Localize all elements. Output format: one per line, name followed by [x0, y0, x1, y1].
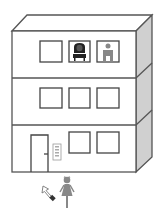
floor-3 [40, 41, 119, 62]
intercom-panel[interactable] [53, 144, 61, 160]
window-w3-3[interactable] [97, 41, 119, 62]
building-scene [0, 0, 162, 218]
woman-visitor-icon [60, 176, 74, 208]
window-w2-3[interactable] [97, 88, 119, 108]
window-w1-3[interactable] [97, 132, 119, 153]
window-w1-2[interactable] [69, 132, 90, 153]
window-w2-1[interactable] [40, 88, 62, 108]
building-side-wall [136, 15, 152, 172]
window-w2-2[interactable] [69, 88, 90, 108]
building-roof [12, 15, 152, 31]
window-w3-1[interactable] [40, 41, 62, 62]
window-w3-2[interactable] [69, 41, 90, 62]
mouse-cursor-icon [42, 186, 56, 201]
floor-2 [40, 88, 119, 108]
